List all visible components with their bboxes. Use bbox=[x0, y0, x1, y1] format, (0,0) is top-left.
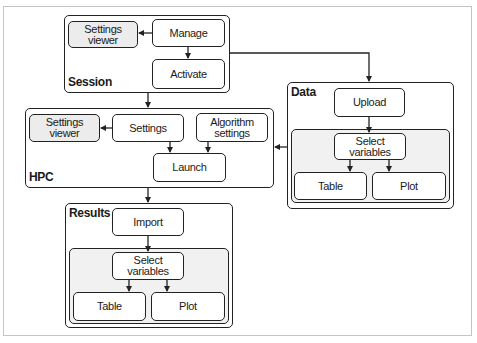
results-select-variables-node: Select variables bbox=[112, 252, 184, 280]
results-label: Results bbox=[69, 206, 110, 220]
results-import-node: Import bbox=[112, 208, 184, 236]
data-table-node: Table bbox=[294, 172, 367, 200]
data-select-variables-node: Select variables bbox=[334, 133, 406, 160]
launch-node: Launch bbox=[153, 153, 226, 182]
session-label: Session bbox=[68, 75, 112, 89]
hpc-label: HPC bbox=[29, 170, 53, 184]
activate-node: Activate bbox=[152, 59, 225, 89]
data-plot-node: Plot bbox=[372, 172, 446, 200]
hpc-settings-viewer-node: Settings viewer bbox=[29, 114, 100, 142]
session-settings-viewer-node: Settings viewer bbox=[68, 21, 138, 48]
data-label: Data bbox=[291, 85, 316, 99]
settings-node: Settings bbox=[112, 114, 184, 142]
results-table-node: Table bbox=[73, 292, 146, 321]
data-upload-node: Upload bbox=[334, 88, 405, 117]
manage-node: Manage bbox=[152, 19, 225, 47]
algorithm-settings-node: Algorithm settings bbox=[196, 113, 268, 142]
results-plot-node: Plot bbox=[151, 292, 225, 321]
